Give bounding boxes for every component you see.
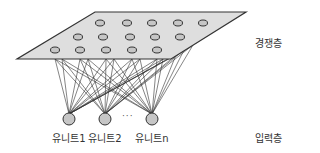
- competitive-node: [102, 47, 111, 53]
- input-unit-node: [99, 113, 111, 125]
- competitive-node: [126, 34, 135, 40]
- connection-line: [105, 59, 132, 114]
- input-unit-node: [63, 113, 75, 125]
- connection-line: [152, 55, 176, 114]
- connection-line: [55, 59, 69, 114]
- connection-line: [105, 59, 106, 114]
- competitive-node: [174, 20, 183, 26]
- competitive-node: [51, 47, 60, 53]
- competitive-node: [148, 20, 157, 26]
- ellipsis: ···: [122, 111, 134, 121]
- input-unit-1-label: 유니트1: [52, 130, 85, 145]
- connection-line: [55, 59, 152, 114]
- competitive-node: [153, 47, 162, 53]
- input-unit-node: [146, 113, 158, 125]
- input-unit-n-label: 유니트n: [135, 130, 168, 145]
- connection-line: [62, 59, 69, 114]
- input-layer-label: 입력층: [255, 130, 282, 145]
- competitive-node: [199, 20, 208, 26]
- competitive-node: [76, 47, 85, 53]
- input-unit-2-label: 유니트2: [88, 130, 121, 145]
- competitive-node: [99, 34, 108, 40]
- input-layer-nodes: [63, 113, 158, 125]
- competitive-node: [128, 47, 137, 53]
- competitive-node: [151, 34, 160, 40]
- competitive-node: [176, 34, 185, 40]
- competitive-layer-label: 경쟁층: [255, 35, 282, 50]
- competitive-node: [74, 34, 83, 40]
- competitive-node: [96, 20, 105, 26]
- competitive-node: [123, 20, 132, 26]
